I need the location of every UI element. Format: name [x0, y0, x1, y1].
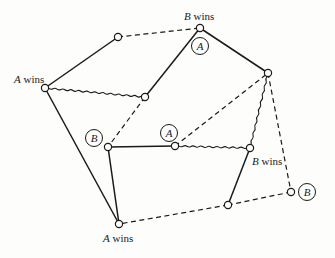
edge-n10-n11-dashed	[119, 205, 228, 224]
edge-n1-n3-solid	[45, 37, 118, 88]
player-marker-b: B	[86, 130, 103, 147]
node-n7	[171, 142, 178, 149]
node-n9	[287, 188, 294, 195]
player-marker-a: A	[192, 38, 209, 55]
node-n8	[246, 144, 253, 151]
edge-n3-n11-solid	[45, 88, 119, 224]
node-n6	[104, 143, 111, 150]
edge-n5-n9-dashed	[268, 73, 291, 192]
node-n1	[114, 33, 121, 40]
label-b-wins-right: B wins	[252, 155, 282, 167]
edge-n2-n5-solid	[200, 28, 268, 73]
edge-n7-n5-dashed	[175, 73, 268, 146]
edge-n7-n8-wavy	[175, 145, 250, 148]
player-markers: ABAB	[86, 38, 316, 201]
svg-text:B: B	[91, 132, 98, 144]
node-n2	[196, 24, 203, 31]
label-b-wins-top: B wins	[184, 10, 214, 22]
edge-n1-n2-dashed	[118, 28, 200, 37]
label-a-wins-bottom: A wins	[102, 232, 133, 244]
edge-n5-n8-wavy	[250, 73, 268, 148]
edge-n2-n4-solid	[145, 28, 200, 97]
edges	[45, 28, 291, 224]
edge-n4-n6-dashed	[108, 97, 145, 147]
edge-n8-n10-solid	[228, 148, 250, 205]
game-graph-diagram: ABAB B wins A wins B wins A wins	[0, 0, 335, 258]
node-n10	[224, 201, 231, 208]
label-a-wins-left: A wins	[13, 73, 44, 85]
edge-n3-n4-wavy	[45, 88, 145, 98]
edge-n6-n7-solid	[108, 146, 175, 147]
node-n11	[115, 220, 122, 227]
edge-n9-n10-dashed	[228, 192, 291, 205]
svg-text:A: A	[196, 40, 204, 52]
node-n5	[264, 69, 271, 76]
node-n4	[141, 93, 148, 100]
node-n3	[41, 84, 48, 91]
svg-text:B: B	[304, 186, 311, 198]
svg-text:A: A	[165, 127, 173, 139]
nodes	[41, 24, 294, 227]
player-marker-a: A	[161, 125, 178, 142]
player-marker-b: B	[299, 184, 316, 201]
